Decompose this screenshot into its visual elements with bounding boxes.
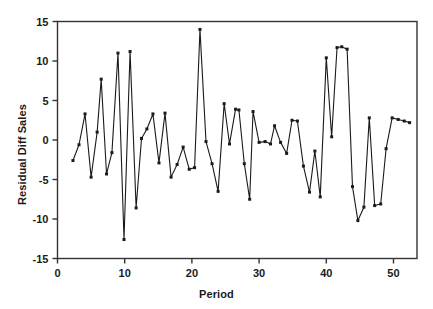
square-marker-icon (84, 112, 87, 115)
square-marker-icon (273, 124, 276, 127)
square-marker-icon (188, 168, 191, 171)
square-marker-icon (356, 219, 359, 222)
x-tick-label: 20 (186, 267, 198, 279)
square-marker-icon (291, 119, 294, 122)
square-marker-icon (198, 28, 201, 31)
square-marker-icon (368, 116, 371, 119)
square-marker-icon (140, 137, 143, 140)
x-axis: 01020304050 (54, 259, 399, 279)
plot-frame (58, 22, 418, 259)
square-marker-icon (391, 116, 394, 119)
x-tick-label: 30 (253, 267, 265, 279)
square-marker-icon (252, 110, 255, 113)
y-tick-label: 15 (36, 16, 48, 28)
data-series-line (73, 29, 410, 239)
square-marker-icon (223, 102, 226, 105)
square-marker-icon (71, 159, 74, 162)
y-axis-title: Residual Diff Sales (16, 104, 28, 205)
square-marker-icon (269, 142, 272, 145)
square-marker-icon (193, 166, 196, 169)
x-axis-title: Period (0, 288, 433, 300)
x-tick-label: 50 (387, 267, 399, 279)
square-marker-icon (217, 190, 220, 193)
square-marker-icon (205, 140, 208, 143)
y-tick-label: 5 (42, 95, 48, 107)
square-marker-icon (211, 162, 214, 165)
square-marker-icon (325, 56, 328, 59)
square-marker-icon (258, 141, 261, 144)
square-marker-icon (135, 206, 138, 209)
square-marker-icon (308, 191, 311, 194)
square-marker-icon (285, 152, 288, 155)
square-marker-icon (145, 127, 148, 130)
square-marker-icon (264, 140, 267, 143)
square-marker-icon (90, 176, 93, 179)
square-marker-icon (228, 142, 231, 145)
x-tick-label: 0 (54, 267, 60, 279)
square-marker-icon (157, 161, 160, 164)
y-tick-label: 10 (36, 55, 48, 67)
square-marker-icon (346, 48, 349, 51)
square-marker-icon (123, 238, 126, 241)
square-marker-icon (340, 45, 343, 48)
square-marker-icon (330, 135, 333, 138)
square-marker-icon (243, 162, 246, 165)
square-marker-icon (182, 146, 185, 149)
square-marker-icon (237, 108, 240, 111)
x-tick-label: 10 (119, 267, 131, 279)
square-marker-icon (170, 176, 173, 179)
square-marker-icon (351, 185, 354, 188)
square-marker-icon (302, 165, 305, 168)
square-marker-icon (397, 118, 400, 121)
square-marker-icon (403, 120, 406, 123)
square-marker-icon (362, 206, 365, 209)
square-marker-icon (296, 120, 299, 123)
square-marker-icon (110, 151, 113, 154)
square-marker-icon (373, 204, 376, 207)
square-marker-icon (176, 163, 179, 166)
square-marker-icon (151, 112, 154, 115)
square-marker-icon (313, 150, 316, 153)
square-marker-icon (408, 121, 411, 124)
y-tick-label: -10 (33, 213, 49, 225)
y-tick-label: -15 (33, 253, 49, 265)
y-tick-label: 0 (42, 134, 48, 146)
square-marker-icon (164, 112, 167, 115)
y-axis: -15-10-5051015 (33, 16, 58, 265)
square-marker-icon (105, 172, 108, 175)
square-marker-icon (279, 141, 282, 144)
square-marker-icon (78, 143, 81, 146)
square-marker-icon (379, 202, 382, 205)
chart-figure: -15-10-5051015 01020304050 Residual Diff… (0, 0, 433, 309)
square-marker-icon (319, 195, 322, 198)
square-marker-icon (116, 52, 119, 55)
square-marker-icon (248, 198, 251, 201)
square-marker-icon (100, 78, 103, 81)
square-marker-icon (234, 108, 237, 111)
plot-canvas: -15-10-5051015 01020304050 (0, 0, 433, 309)
y-tick-label: -5 (39, 174, 49, 186)
square-marker-icon (385, 147, 388, 150)
x-tick-label: 40 (320, 267, 332, 279)
square-marker-icon (129, 50, 132, 53)
square-marker-icon (96, 131, 99, 134)
square-marker-icon (336, 46, 339, 49)
